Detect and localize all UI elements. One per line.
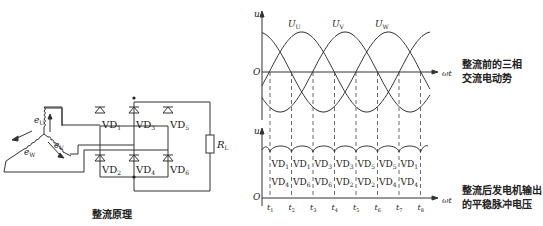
lower-conducting-diode: VD2 xyxy=(357,177,376,188)
lower-description-2: 的平稳脉冲电压 xyxy=(462,198,532,210)
lower-origin: O xyxy=(253,192,261,202)
time-mark-t7: t7 xyxy=(396,203,402,213)
load-resistor xyxy=(206,135,214,153)
time-mark-t2: t2 xyxy=(289,203,295,213)
label-rl: RL xyxy=(216,139,229,151)
upper-conducting-diode: VD5 xyxy=(378,159,397,170)
time-mark-t4: t4 xyxy=(332,203,338,213)
label-vd6: VD6 xyxy=(169,164,189,176)
upper-conducting-diode: VD1 xyxy=(271,159,290,170)
upper-x-label: ωt xyxy=(442,69,453,78)
upper-plot xyxy=(260,11,438,120)
label-ev: eV xyxy=(54,140,64,151)
rectified-ripple xyxy=(262,146,428,152)
time-mark-t8: t8 xyxy=(418,203,424,213)
label-ew: eW xyxy=(24,147,36,158)
lower-conducting-diode: VD4 xyxy=(400,177,419,188)
lower-conducting-diode: VD2 xyxy=(335,177,354,188)
time-mark-t5: t5 xyxy=(353,203,359,213)
lower-conducting-diode: VD4 xyxy=(378,177,397,188)
phase-leads xyxy=(43,107,100,126)
diode-vd5 xyxy=(163,107,173,113)
upper-conducting-diode: VD1 xyxy=(400,159,419,170)
upper-conducting-diode: VD3 xyxy=(335,159,354,170)
time-mark-labels: t1t2t3t4t5t6t7t8 xyxy=(267,203,424,213)
rectifier-circuit xyxy=(43,102,214,191)
time-mark-t6: t6 xyxy=(375,203,381,213)
lower-y-label: u xyxy=(254,126,260,136)
lower-conducting-diode: VD6 xyxy=(292,177,311,188)
load-loop-wire xyxy=(134,102,210,191)
conducting-diode-labels: VD1VD4VD1VD6VD3VD6VD3VD2VD5VD2VD5VD4VD1V… xyxy=(271,159,419,188)
upper-description-2: 交流电动势 xyxy=(462,72,512,84)
upper-origin: O xyxy=(253,67,261,77)
junction-dot xyxy=(132,96,135,99)
lower-conducting-diode: VD4 xyxy=(271,177,290,188)
upper-description-1: 整流前的三相 xyxy=(461,58,522,70)
circuit-caption: 整流原理 xyxy=(91,208,132,220)
lower-x-label: ωt xyxy=(442,196,453,205)
label-vd3: VD3 xyxy=(135,119,155,131)
upper-y-label: u xyxy=(254,9,260,19)
time-mark-t3: t3 xyxy=(310,203,316,213)
label-uv: UV xyxy=(332,19,345,30)
upper-conducting-diode: VD3 xyxy=(314,159,333,170)
rectifier-diagram: eU eV eW VD1 VD3 VD5 VD2 VD4 VD6 RL 整流原理… xyxy=(0,0,543,226)
lower-conducting-diode: VD6 xyxy=(314,177,333,188)
diode-vd1 xyxy=(95,107,105,113)
junction-dot xyxy=(132,175,135,178)
label-vd4: VD4 xyxy=(135,164,155,176)
label-eu: eU xyxy=(34,115,44,126)
label-uw: UW xyxy=(375,19,390,30)
time-mark-t1: t1 xyxy=(267,203,273,213)
lower-description-1: 整流后发电机输出 xyxy=(461,184,542,196)
label-vd5: VD5 xyxy=(169,119,189,131)
label-vd1: VD1 xyxy=(101,119,121,131)
label-uu: UU xyxy=(288,19,301,30)
label-vd2: VD2 xyxy=(101,164,121,176)
upper-conducting-diode: VD5 xyxy=(357,159,376,170)
upper-conducting-diode: VD1 xyxy=(292,159,311,170)
